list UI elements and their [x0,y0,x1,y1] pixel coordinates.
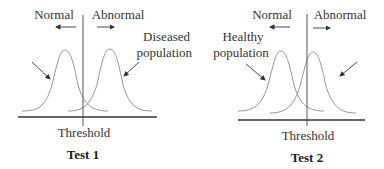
diseased-curve [270,52,356,113]
normal-label: Normal [34,7,74,22]
pointer-arrow-icon [340,62,357,76]
panel-title: Test 1 [67,147,99,162]
pointer-arrow-icon [124,62,139,76]
panel-title: Test 2 [291,150,323,165]
healthy-curve [238,51,324,111]
annotation-line2: population [136,45,192,60]
threshold-label: Threshold [58,125,111,140]
abnormal-label: Abnormal [314,7,367,22]
normal-label: Normal [252,7,292,22]
threshold-label: Threshold [282,128,335,143]
healthy-curve [22,50,108,111]
panel-test-2: Normal Abnormal Healthy population Thres… [213,7,367,165]
panel-test-1: Normal Abnormal Diseased population Thre… [18,7,192,162]
annotation-line1: Healthy [222,29,264,44]
annotation-line1: Diseased [143,29,190,44]
diagram-canvas: Normal Abnormal Diseased population Thre… [0,0,384,169]
pointer-arrow-icon [32,62,50,79]
pointer-arrow-icon [246,64,265,80]
abnormal-label: Abnormal [92,7,145,22]
annotation-line2: population [213,45,269,60]
